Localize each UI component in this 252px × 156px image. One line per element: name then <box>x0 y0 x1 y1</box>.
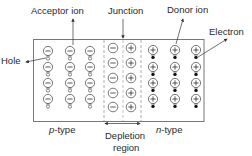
hole-label: Hole <box>1 56 21 66</box>
donor-ion-label: Donor ion <box>167 5 208 15</box>
depletion-label-line1: Depletion <box>105 131 145 141</box>
n-type-suffix: -type <box>161 124 182 135</box>
p-type-label: p-type <box>49 125 75 135</box>
electron-label: Electron <box>209 27 244 37</box>
depletion-label-line2: region <box>113 143 139 153</box>
p-type-suffix: -type <box>54 124 75 135</box>
junction-label: Junction <box>108 6 143 16</box>
acceptor-ion-label: Acceptor ion <box>31 6 84 16</box>
n-type-label: n-type <box>156 125 182 135</box>
